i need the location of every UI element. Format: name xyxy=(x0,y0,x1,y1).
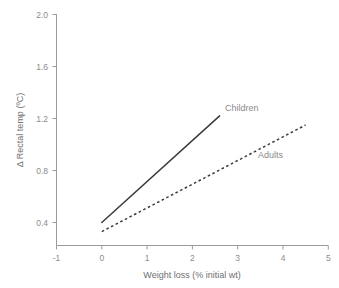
y-tick-label-2-0: 2.0 xyxy=(36,10,48,20)
y-axis-title: Δ Rectal temp (ºC) xyxy=(15,93,25,167)
series-label-children: Children xyxy=(225,103,259,113)
chart-figure: 2.0 1.6 1.2 0.8 0.4 -1 0 1 2 3 4 5 Weigh… xyxy=(0,0,339,288)
x-tick-label-1: 1 xyxy=(145,253,150,263)
y-tick-label-1-2: 1.2 xyxy=(36,114,48,124)
x-tick-label-neg1: -1 xyxy=(53,253,61,263)
series-line-children xyxy=(102,116,220,223)
x-tick-label-4: 4 xyxy=(281,253,286,263)
line-chart: 2.0 1.6 1.2 0.8 0.4 -1 0 1 2 3 4 5 Weigh… xyxy=(0,0,339,288)
x-tick-label-5: 5 xyxy=(326,253,331,263)
series-line-adults xyxy=(102,125,306,232)
y-tick-label-0-4: 0.4 xyxy=(36,218,48,228)
y-tick-label-1-6: 1.6 xyxy=(36,62,48,72)
x-axis-ticks xyxy=(57,246,329,250)
x-tick-label-2: 2 xyxy=(190,253,195,263)
y-axis-ticks xyxy=(53,15,57,223)
y-tick-label-0-8: 0.8 xyxy=(36,166,48,176)
x-tick-label-0: 0 xyxy=(99,253,104,263)
x-axis-title: Weight loss (% initial wt) xyxy=(143,270,240,280)
x-tick-label-3: 3 xyxy=(235,253,240,263)
series-label-adults: Adults xyxy=(258,150,284,160)
